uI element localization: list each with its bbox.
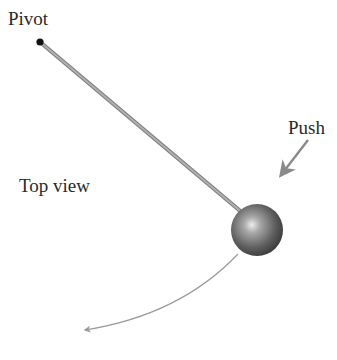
pendulum-diagram: Pivot Push Top view [0,0,337,360]
push-arrow-icon [281,140,308,175]
motion-arc-arrow-icon [85,254,238,330]
pivot-point-icon [36,38,43,45]
pivot-label: Pivot [8,9,48,28]
push-label: Push [288,118,325,137]
pendulum-ball [231,204,283,256]
top-view-label: Top view [19,176,90,195]
